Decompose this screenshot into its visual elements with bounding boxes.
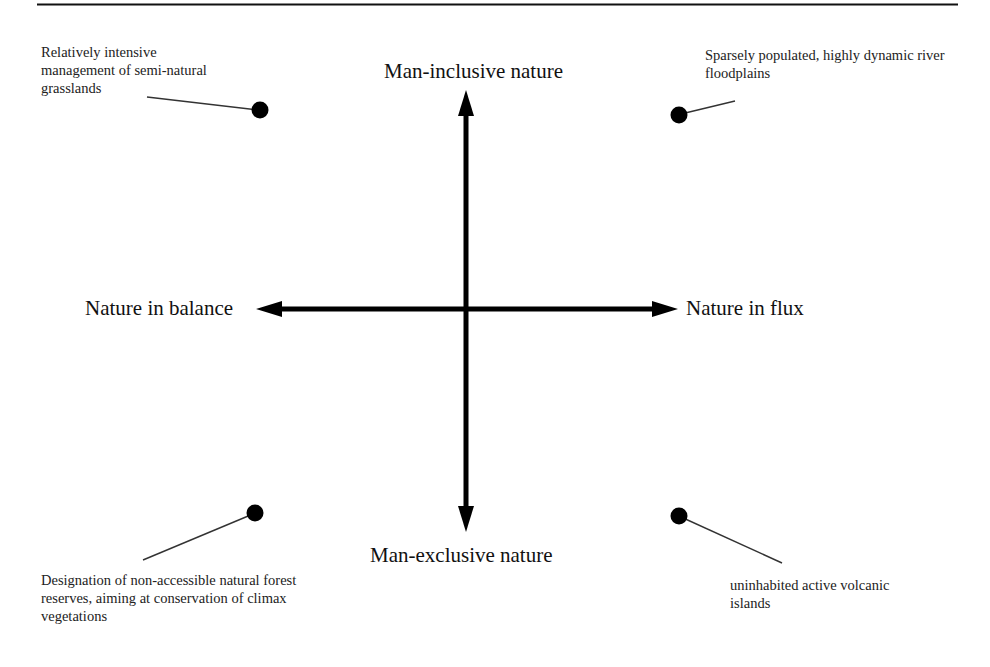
axis-label-bottom: Man-exclusive nature xyxy=(370,545,553,566)
note-bottom-right: uninhabited active volcanic islands xyxy=(730,576,889,612)
arrow-down-icon xyxy=(458,506,474,532)
note-top-left: Relatively intensive management of semi-… xyxy=(41,43,207,97)
note-line: Sparsely populated, highly dynamic river xyxy=(705,46,945,64)
marker-top-right-icon xyxy=(671,107,688,124)
leader-bottom-left xyxy=(143,514,253,560)
note-line: floodplains xyxy=(705,64,945,82)
axis-label-right: Nature in flux xyxy=(686,298,804,319)
note-line: grasslands xyxy=(41,79,207,97)
note-top-right: Sparsely populated, highly dynamic river… xyxy=(705,46,945,82)
note-line: uninhabited active volcanic xyxy=(730,576,889,594)
marker-top-left-icon xyxy=(252,102,269,119)
leader-bottom-right xyxy=(681,517,782,563)
note-line: Relatively intensive xyxy=(41,43,207,61)
note-line: islands xyxy=(730,594,889,612)
arrow-left-icon xyxy=(256,301,282,317)
note-line: reserves, aiming at conservation of clim… xyxy=(41,589,296,607)
marker-bottom-left-icon xyxy=(247,505,264,522)
leader-top-right xyxy=(681,101,735,114)
note-bottom-left: Designation of non-accessible natural fo… xyxy=(41,571,296,625)
axis-label-left: Nature in balance xyxy=(85,298,233,319)
note-line: Designation of non-accessible natural fo… xyxy=(41,571,296,589)
note-line: vegetations xyxy=(41,607,296,625)
diagram-canvas: Man-inclusive nature Man-exclusive natur… xyxy=(0,0,990,667)
axis-label-top: Man-inclusive nature xyxy=(384,61,563,82)
note-line: management of semi-natural xyxy=(41,61,207,79)
marker-bottom-right-icon xyxy=(671,508,688,525)
arrow-up-icon xyxy=(458,90,474,116)
arrow-right-icon xyxy=(652,301,678,317)
leader-top-left xyxy=(147,97,258,110)
